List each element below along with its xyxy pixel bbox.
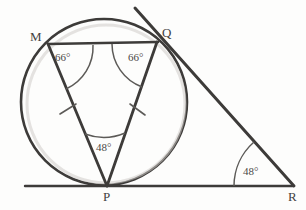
- angle-label-r: 48°: [243, 166, 258, 177]
- angle-label-p: 48°: [96, 142, 111, 153]
- tangent-line-qr: [135, 8, 294, 186]
- vertex-label-m: M: [30, 30, 42, 43]
- geometry-canvas: [0, 0, 306, 210]
- angle-arc-p: [85, 133, 125, 137]
- vertex-label-r: R: [288, 190, 297, 203]
- vertex-label-q: Q: [162, 26, 171, 39]
- angle-label-m: 66°: [55, 52, 70, 63]
- chord-mq: [48, 42, 158, 44]
- vertex-label-p: P: [103, 190, 110, 203]
- angle-label-q: 66°: [128, 52, 143, 63]
- geometry-figure: M Q P R 66° 66° 48° 48°: [0, 0, 306, 210]
- angle-arc-r: [234, 142, 254, 186]
- chord-pq: [107, 42, 157, 186]
